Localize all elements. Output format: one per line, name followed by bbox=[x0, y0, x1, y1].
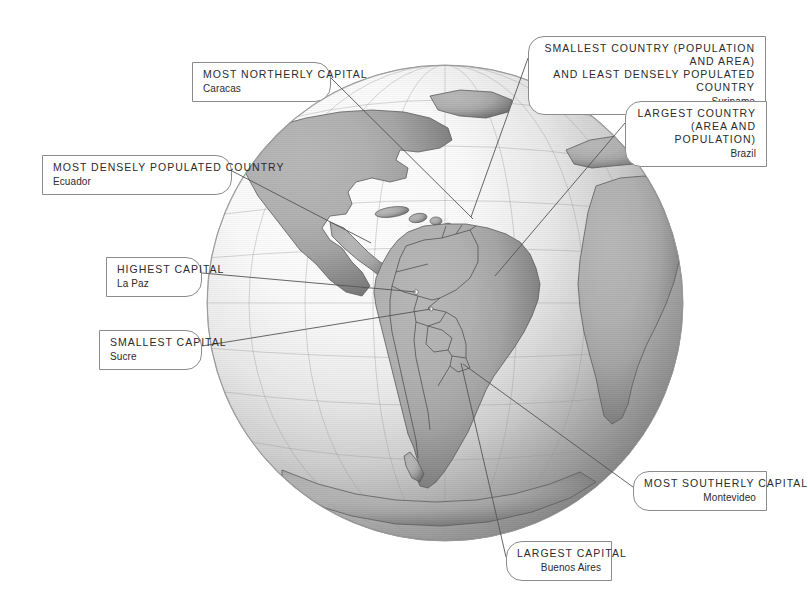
callout-title: LARGEST CAPITAL bbox=[517, 547, 601, 560]
callout-title: SMALLEST CAPITAL bbox=[110, 336, 191, 349]
callout-subtitle: La Paz bbox=[117, 277, 191, 290]
callout-title: LARGEST COUNTRY (AREA AND POPULATION) bbox=[636, 107, 756, 146]
callout-subtitle: Montevideo bbox=[644, 491, 756, 504]
callout-most-southerly-capital[interactable]: MOST SOUTHERLY CAPITAL Montevideo bbox=[633, 471, 767, 511]
callout-title: HIGHEST CAPITAL bbox=[117, 263, 191, 276]
callout-subtitle: Buenos Aires bbox=[517, 561, 601, 574]
callout-subtitle: Brazil bbox=[636, 147, 756, 160]
callout-smallest-capital[interactable]: SMALLEST CAPITAL Sucre bbox=[99, 330, 202, 370]
callout-subtitle: Ecuador bbox=[53, 175, 221, 188]
callout-title: SMALLEST COUNTRY (POPULATION AND AREA) A… bbox=[539, 42, 755, 94]
callout-title: MOST DENSELY POPULATED COUNTRY bbox=[53, 161, 221, 174]
callout-title: MOST SOUTHERLY CAPITAL bbox=[644, 477, 756, 490]
callout-largest-country[interactable]: LARGEST COUNTRY (AREA AND POPULATION) Br… bbox=[625, 101, 767, 167]
callout-largest-capital[interactable]: LARGEST CAPITAL Buenos Aires bbox=[506, 541, 612, 581]
callout-title: MOST NORTHERLY CAPITAL bbox=[203, 68, 320, 81]
infographic-page: MOST NORTHERLY CAPITAL Caracas MOST DENS… bbox=[0, 0, 807, 601]
callout-most-densely-populated-country[interactable]: MOST DENSELY POPULATED COUNTRY Ecuador bbox=[42, 155, 232, 195]
callout-most-northerly-capital[interactable]: MOST NORTHERLY CAPITAL Caracas bbox=[192, 62, 331, 102]
callout-subtitle: Caracas bbox=[203, 82, 320, 95]
callout-highest-capital[interactable]: HIGHEST CAPITAL La Paz bbox=[106, 257, 202, 297]
callout-subtitle: Sucre bbox=[110, 350, 191, 363]
